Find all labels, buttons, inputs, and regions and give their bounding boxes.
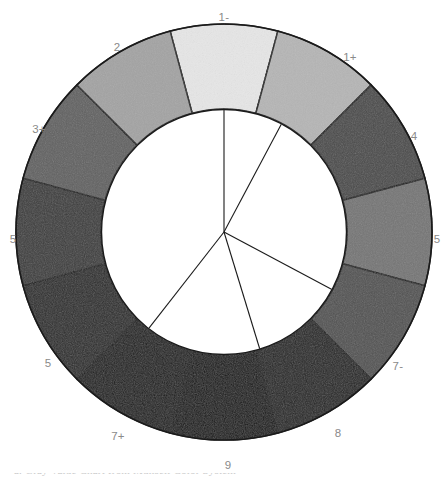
ring-value-label: 5 [434,233,441,245]
caption-strip: a. Gray Value Chart from Munsell Color S… [0,473,448,482]
ring-value-label: 7+ [111,430,125,442]
value-wheel-figure: 1-1+457-897+553+2 [0,0,448,482]
ring-value-label: 4 [411,130,418,142]
figure-caption: a. Gray Value Chart from Munsell Color S… [14,473,236,476]
ring-value-label: 9 [225,459,232,471]
ring-value-label: 7- [393,360,404,372]
ring-value-label: 5 [10,233,17,245]
ring-value-label: 1+ [343,51,357,63]
ring-value-label: 1- [219,11,230,23]
value-wheel-svg: 1-1+457-897+553+2 [0,0,448,482]
ring-value-label: 3+ [32,123,46,135]
ring-value-label: 2 [114,41,121,53]
ring-value-label: 8 [335,427,342,439]
ring-value-label: 5 [45,357,52,369]
